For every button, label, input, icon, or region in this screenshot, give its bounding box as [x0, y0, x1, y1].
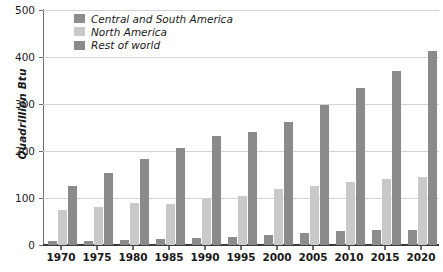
bar-group: [48, 10, 78, 245]
bar-group: [372, 10, 402, 245]
y-axis-title: Quadrillion Btu: [16, 54, 28, 174]
bar: [248, 132, 257, 245]
x-tick-mark: [348, 246, 349, 250]
bar: [120, 240, 129, 245]
x-tick-mark: [132, 246, 133, 250]
y-tick-label: 100: [1, 193, 35, 204]
legend-swatch-icon: [74, 41, 85, 50]
legend-item: North America: [74, 26, 233, 38]
bar: [192, 238, 201, 245]
bar-group: [300, 10, 330, 245]
chart-legend: Central and South AmericaNorth AmericaRe…: [74, 13, 233, 53]
legend-item: Central and South America: [74, 13, 233, 25]
x-tick-mark: [420, 246, 421, 250]
bar-chart: Quadrillion Btu 0100200300400500 1970197…: [0, 0, 443, 272]
legend-item: Rest of world: [74, 39, 233, 51]
bar: [310, 186, 319, 245]
bar: [166, 204, 175, 245]
bar: [300, 233, 309, 245]
x-tick-mark: [96, 246, 97, 250]
legend-swatch-icon: [74, 14, 85, 23]
x-tick-mark: [384, 246, 385, 250]
bar: [130, 203, 139, 245]
y-tick-label: 500: [1, 5, 35, 16]
bar: [68, 186, 77, 245]
bar: [48, 241, 57, 245]
x-tick-mark: [168, 246, 169, 250]
bar: [336, 231, 345, 245]
legend-label: Central and South America: [91, 14, 233, 25]
bar-group: [264, 10, 294, 245]
x-tick-mark: [312, 246, 313, 250]
legend-label: Rest of world: [91, 40, 160, 51]
bar: [176, 148, 185, 245]
bar: [212, 136, 221, 246]
x-tick-mark: [60, 246, 61, 250]
bar: [238, 196, 247, 245]
bar: [94, 207, 103, 245]
x-tick-mark: [276, 246, 277, 250]
bar: [264, 235, 273, 245]
bar: [156, 239, 165, 245]
legend-swatch-icon: [74, 27, 85, 36]
bar: [104, 173, 113, 245]
bar: [84, 241, 93, 245]
bar: [274, 189, 283, 245]
bar: [284, 122, 293, 245]
bar: [428, 51, 437, 245]
bar: [320, 105, 329, 245]
bar: [346, 182, 355, 245]
x-tick-label: 2020: [399, 252, 443, 264]
x-tick-mark: [204, 246, 205, 250]
bar: [408, 230, 417, 246]
bar: [392, 71, 401, 245]
bar-group: [336, 10, 366, 245]
bar: [382, 179, 391, 245]
legend-label: North America: [91, 27, 167, 38]
bar: [202, 199, 211, 245]
bar: [372, 230, 381, 245]
bar: [58, 210, 67, 245]
bar: [418, 177, 427, 245]
bar: [356, 88, 365, 245]
bar-group: [408, 10, 438, 245]
bar: [228, 237, 237, 245]
y-tick-label: 0: [1, 240, 35, 251]
bar: [140, 159, 149, 245]
x-tick-mark: [240, 246, 241, 250]
